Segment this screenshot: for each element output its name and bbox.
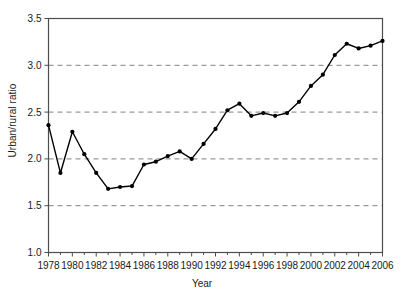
y-tick-label: 1.5 [28,200,42,211]
data-point [368,44,372,48]
y-tick-label: 3.0 [28,60,42,71]
x-tick-label: 2004 [348,260,371,271]
data-point [261,111,265,115]
data-point [58,171,62,175]
data-point [273,114,277,118]
x-tick-label: 2000 [300,260,323,271]
data-point [309,84,313,88]
data-point [166,154,170,158]
x-tick-label: 1990 [181,260,204,271]
data-point [357,46,361,50]
line-chart-plot: 1.01.52.02.53.03.5 197819801982198419861… [0,0,404,304]
y-tick-label: 2.5 [28,107,42,118]
x-tick-label: 1994 [228,260,251,271]
x-axis-title: Year [0,278,404,289]
y-tick-label: 1.0 [28,247,42,258]
data-point [70,130,74,134]
x-tick-label: 1980 [61,260,84,271]
x-tick-label: 1988 [157,260,180,271]
x-tick-label: 1984 [109,260,132,271]
data-point [94,171,98,175]
data-point [249,114,253,118]
data-point [237,102,241,106]
x-tick-label: 2002 [324,260,347,271]
data-point [201,142,205,146]
data-point [154,160,158,164]
y-tick-label: 2.0 [28,153,42,164]
x-tick-label: 2006 [371,260,394,271]
data-point [225,108,229,112]
data-point [82,152,86,156]
x-tick-label: 1986 [133,260,156,271]
data-point [46,123,50,127]
x-tick-label: 1998 [276,260,299,271]
chart-figure: Urban/rural ratio 1.01.52.02.53.03.5 197… [0,0,404,304]
data-point [178,149,182,153]
data-point [380,39,384,43]
data-point [345,42,349,46]
data-point [118,185,122,189]
data-point [213,127,217,131]
data-point [285,111,289,115]
x-axis-title-text: Year [192,278,212,289]
data-point [130,184,134,188]
y-tick-label: 3.5 [28,13,42,24]
chart-background [0,0,404,304]
x-tick-label: 1992 [204,260,227,271]
data-point [106,187,110,191]
data-point [190,157,194,161]
x-tick-label: 1978 [37,260,60,271]
x-tick-label: 1996 [252,260,275,271]
x-tick-label: 1982 [85,260,108,271]
data-point [333,53,337,57]
data-point [142,162,146,166]
data-point [321,73,325,77]
data-point [297,100,301,104]
